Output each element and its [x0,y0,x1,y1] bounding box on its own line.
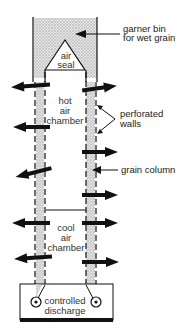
svg-text:chamber: chamber [47,115,84,126]
grain-column-left [35,70,46,298]
discharge-label-2: discharge [44,305,85,316]
controlled-discharge: controlled discharge [20,284,113,322]
svg-text:grain column: grain column [121,164,175,175]
svg-text:for wet grain: for wet grain [123,32,175,43]
svg-text:chamber: chamber [48,242,85,253]
air-seal-label-2: seal [57,59,74,70]
roller-icon [91,297,101,307]
arrow-icon [12,218,50,228]
grain-column-callout: grain column [92,164,175,175]
arrow-icon [11,80,51,93]
roller-icon [31,297,41,307]
perforated-walls-callout: perforated walls [97,105,163,134]
svg-text:walls: walls [119,118,141,129]
grain-dryer-diagram: air seal hot air chamber cool air chambe… [0,0,185,332]
